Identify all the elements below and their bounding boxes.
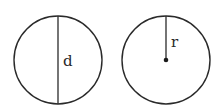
center-dot (164, 58, 169, 63)
circle-diagram: d r (0, 0, 220, 112)
diameter-label: d (63, 52, 73, 70)
radius-figure: r (122, 16, 210, 104)
radius-label: r (171, 33, 179, 51)
diameter-figure: d (14, 16, 102, 104)
